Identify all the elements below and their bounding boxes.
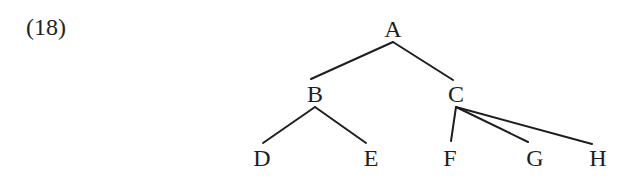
node-g: G (526, 145, 543, 171)
tree-diagram: A B C D E F G H (0, 0, 632, 179)
node-b: B (307, 81, 323, 107)
edge-c-f (451, 107, 456, 141)
node-h: H (589, 145, 606, 171)
edge-b-e (315, 107, 366, 143)
node-d: D (253, 145, 270, 171)
edge-a-b (311, 42, 393, 79)
node-f: F (443, 145, 456, 171)
edge-b-d (263, 107, 315, 143)
edge-a-c (393, 42, 453, 80)
edge-c-h (456, 107, 592, 144)
tree-nodes: A B C D E F G H (253, 16, 606, 171)
node-a: A (384, 16, 402, 42)
node-c: C (448, 81, 464, 107)
node-e: E (364, 145, 379, 171)
